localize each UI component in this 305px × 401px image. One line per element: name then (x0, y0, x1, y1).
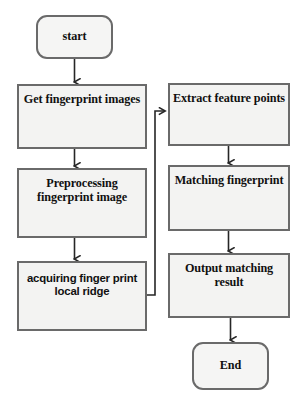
node-get-fingerprint-images-label: Get fingerprint images (19, 93, 145, 107)
node-matching-fingerprint-label: Matching fingerprint (170, 174, 288, 188)
node-acquiring-finger-print-local-ridge[interactable]: acquiring finger print local ridge (17, 261, 147, 331)
node-start[interactable]: start (36, 15, 113, 59)
node-end-label: End (194, 359, 267, 373)
node-output-matching-result[interactable]: Output matching result (168, 253, 290, 318)
node-start-label: start (38, 30, 111, 44)
node-output-matching-result-label: Output matching result (170, 262, 288, 289)
node-end[interactable]: End (192, 342, 269, 390)
node-preprocessing-fingerprint-image[interactable]: Preprocessing fingerprint image (17, 168, 147, 238)
node-acquiring-finger-print-local-ridge-label: acquiring finger print local ridge (19, 272, 145, 298)
node-extract-feature-points-label: Extract feature points (170, 92, 288, 106)
node-extract-feature-points[interactable]: Extract feature points (168, 83, 290, 146)
node-preprocessing-fingerprint-image-label: Preprocessing fingerprint image (19, 177, 145, 204)
connector-acquiring-to-extract (147, 111, 165, 295)
node-matching-fingerprint[interactable]: Matching fingerprint (168, 165, 290, 231)
flowchart-diagram: start Get fingerprint images Preprocessi… (0, 0, 305, 401)
node-get-fingerprint-images[interactable]: Get fingerprint images (17, 84, 147, 149)
